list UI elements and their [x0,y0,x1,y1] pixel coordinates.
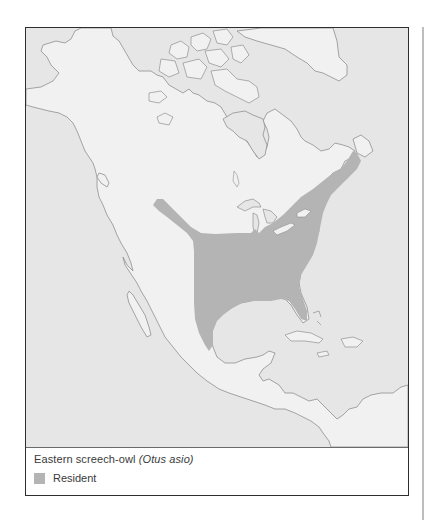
north-america-map [26,28,408,447]
species-common-name: Eastern screech-owl [34,453,136,465]
legend-label-resident: Resident [53,472,96,484]
range-map-figure: Eastern screech-owl (Otus asio) Resident [25,27,409,496]
map-panel [26,28,408,448]
resident-swatch [34,473,45,484]
map-legend: Eastern screech-owl (Otus asio) Resident [26,448,408,495]
page-margin-rule [422,27,424,520]
species-scientific-name: (Otus asio) [139,453,194,465]
legend-item-resident: Resident [34,472,96,484]
legend-title: Eastern screech-owl (Otus asio) [34,453,194,465]
